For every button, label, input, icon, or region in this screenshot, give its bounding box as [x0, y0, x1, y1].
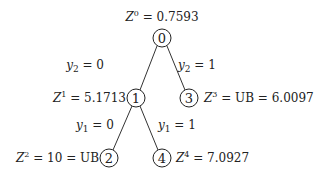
node-0-label: 0	[158, 31, 166, 46]
branch-and-bound-tree: y2 = 0 y2 = 1 y1 = 0 y1 = 1 0 1 3 2 4 Z0…	[0, 0, 327, 176]
node-1-label: 1	[132, 91, 140, 106]
node-3: 3	[180, 89, 198, 107]
edge-label-1-2: y1 = 0	[75, 118, 114, 134]
node-4: 4	[153, 149, 171, 167]
edge-label-1-4: y1 = 1	[157, 118, 196, 134]
node-2-annotation: Z2 = 10 = UB	[15, 150, 99, 165]
node-0: 0	[153, 29, 171, 47]
node-2: 2	[100, 149, 118, 167]
node-1: 1	[127, 89, 145, 107]
node-1-annotation: Z1 = 5.1713	[52, 90, 126, 105]
node-3-label: 3	[185, 91, 193, 106]
node-4-annotation: Z4 = 7.0927	[175, 150, 249, 165]
edge-1-4	[140, 106, 158, 150]
node-3-annotation: Z3 = UB = 6.0097	[203, 90, 314, 105]
node-4-label: 4	[158, 151, 166, 166]
edge-1-2	[113, 106, 132, 150]
edge-label-0-3: y2 = 1	[177, 58, 216, 74]
node-2-label: 2	[105, 151, 113, 166]
edge-label-0-1: y2 = 0	[65, 58, 104, 74]
edge-0-1	[140, 46, 157, 90]
node-0-annotation: Z0 = 0.7593	[124, 9, 198, 24]
